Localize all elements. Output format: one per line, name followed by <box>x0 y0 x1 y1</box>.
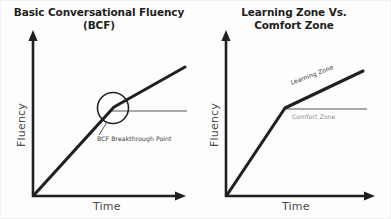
chart-plot-zones <box>196 1 391 219</box>
chart-panel-zones: Learning Zone Vs. Comfort Zone Fluency T… <box>196 1 391 219</box>
figure-container: Basic Conversational Fluency (BCF) Flue <box>0 0 391 219</box>
chart-plot-bcf <box>1 1 197 219</box>
y-axis-label-bcf: Fluency <box>15 103 28 147</box>
y-axis-label-zones: Fluency <box>208 103 221 147</box>
x-axis-label-bcf: Time <box>93 200 121 213</box>
fluency-curve-bcf <box>34 67 185 195</box>
series-label-comfort-zone: Comfort Zone <box>292 113 335 120</box>
chart-panel-bcf: Basic Conversational Fluency (BCF) Flue <box>1 1 197 219</box>
y-axis-bcf <box>28 30 37 197</box>
annotation-bcf-breakthrough-point: BCF Breakthrough Point <box>97 135 172 142</box>
learning-zone-curve <box>227 71 363 195</box>
x-axis-label-zones: Time <box>282 200 310 213</box>
y-axis-zones <box>221 30 230 197</box>
